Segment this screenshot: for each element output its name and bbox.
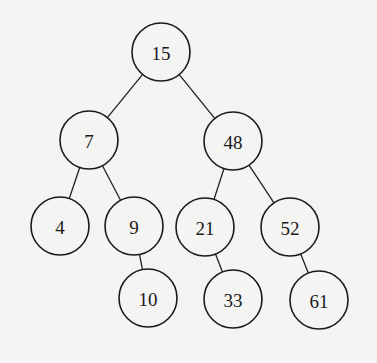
- tree-node-48: 48: [204, 112, 262, 170]
- tree-node-9: 9: [105, 197, 163, 255]
- node-label: 7: [84, 131, 94, 152]
- tree-edges: [69, 74, 308, 273]
- tree-node-33: 33: [204, 270, 262, 328]
- tree-node-52: 52: [261, 198, 319, 256]
- edge-48-21: [214, 169, 224, 200]
- node-label: 52: [281, 218, 300, 239]
- tree-nodes: 15748492152103361: [31, 23, 348, 329]
- edge-52-61: [301, 254, 309, 273]
- tree-node-10: 10: [119, 269, 177, 327]
- edge-7-4: [69, 167, 79, 198]
- node-label: 61: [310, 291, 329, 312]
- node-label: 4: [55, 217, 65, 238]
- edge-21-33: [216, 254, 223, 272]
- node-label: 33: [224, 290, 243, 311]
- edge-48-52: [249, 165, 274, 203]
- edge-15-48: [179, 75, 215, 119]
- node-label: 21: [196, 218, 215, 239]
- tree-node-7: 7: [60, 111, 118, 169]
- edge-9-10: [140, 254, 143, 269]
- edge-15-7: [107, 74, 142, 117]
- tree-node-15: 15: [132, 23, 190, 81]
- bst-diagram: 15748492152103361: [0, 0, 377, 363]
- node-label: 15: [152, 43, 171, 64]
- node-label: 9: [129, 217, 139, 238]
- tree-node-4: 4: [31, 197, 89, 255]
- edge-7-9: [102, 166, 120, 201]
- node-label: 48: [224, 132, 243, 153]
- tree-node-61: 61: [290, 271, 348, 329]
- node-label: 10: [139, 289, 158, 310]
- tree-node-21: 21: [176, 198, 234, 256]
